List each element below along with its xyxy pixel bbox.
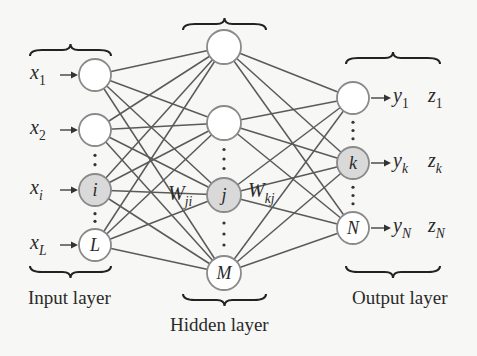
input-label-xi: xi (29, 176, 43, 203)
connection-line (95, 190, 224, 195)
connection-line (95, 47, 224, 190)
neural-network-diagram: iLjMkNx1x2xixLy1z1ykzkyNzNWjiWkj Input l… (0, 0, 477, 356)
hidden-layer-label: Hidden layer (170, 314, 269, 336)
connection-line (95, 123, 224, 130)
connection-line (224, 47, 353, 228)
neuron-label: j (219, 185, 226, 205)
ellipsis-dot (93, 220, 96, 223)
ellipsis-dot (222, 157, 225, 160)
output-z-label-yk: zk (427, 149, 443, 176)
neuron-y1 (337, 82, 369, 114)
ellipsis-dot (351, 129, 354, 132)
connection-line (95, 130, 224, 273)
neuron-x1 (79, 59, 111, 91)
neuron-label: L (89, 235, 100, 255)
connection-line (224, 228, 353, 273)
hidden-top-brace (183, 18, 266, 30)
input-label-x2: x2 (29, 116, 46, 143)
neuron-label: M (216, 263, 233, 283)
neuron-label: i (92, 180, 97, 200)
connection-line (95, 75, 224, 195)
input-top-brace (30, 44, 111, 56)
ellipsis-dot (222, 148, 225, 151)
output-arrow-head (384, 160, 391, 167)
output-arrow-head (384, 225, 391, 232)
ellipsis-dot (351, 121, 354, 124)
connection-line (95, 75, 224, 273)
input-layer-label: Input layer (28, 287, 111, 309)
neuron-h1 (207, 30, 241, 64)
output-layer-label: Output layer (352, 287, 448, 309)
input-bottom-brace (30, 266, 111, 278)
ellipsis-dot (93, 154, 96, 157)
output-y-label-yk: yk (391, 149, 409, 176)
ellipsis-dot (93, 212, 96, 215)
input-arrow-head (71, 242, 78, 249)
ellipsis-dot (351, 186, 354, 189)
hidden-bottom-brace (183, 294, 266, 306)
input-arrow-head (71, 187, 78, 194)
connection-line (95, 47, 224, 245)
neuron-label: k (349, 153, 358, 173)
connection-line (224, 123, 353, 163)
output-z-label-yN: zN (427, 214, 446, 241)
connection-line (224, 47, 353, 98)
ellipsis-dot (222, 167, 225, 170)
output-arrow-head (384, 95, 391, 102)
connection-line (95, 123, 224, 190)
connection-line (224, 98, 353, 123)
connection-line (95, 245, 224, 273)
ellipsis-dot (351, 202, 354, 205)
input-label-x1: x1 (29, 61, 46, 88)
input-label-xL: xL (29, 231, 46, 258)
neuron-label: N (346, 218, 360, 238)
output-y-label-yN: yN (391, 214, 412, 241)
connection-line (95, 123, 224, 245)
output-top-brace (346, 52, 440, 64)
connection-line (224, 98, 353, 273)
output-bottom-brace (346, 266, 440, 278)
output-z-label-y1: z1 (427, 84, 443, 111)
ellipsis-dot (222, 221, 225, 224)
ellipsis-dot (351, 137, 354, 140)
input-arrow-head (71, 72, 78, 79)
ellipsis-dot (222, 243, 225, 246)
connection-line (95, 75, 224, 123)
ellipsis-dot (93, 163, 96, 166)
ellipsis-dot (222, 232, 225, 235)
ellipsis-dot (351, 194, 354, 197)
neuron-h2 (207, 106, 241, 140)
output-y-label-y1: y1 (391, 84, 409, 111)
math-labels: iLjMkNx1x2xixLy1z1ykzkyNzNWjiWkj (29, 61, 446, 283)
neuron-x2 (79, 114, 111, 146)
input-arrow-head (71, 127, 78, 134)
connection-line (95, 130, 224, 195)
connection-line (95, 47, 224, 75)
